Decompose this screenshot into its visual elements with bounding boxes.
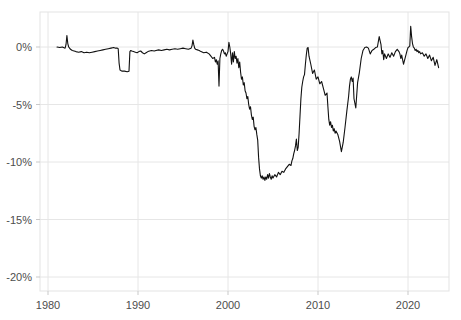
x-axis-tick-label: 2000 <box>216 299 240 311</box>
y-axis-tick-label: -15% <box>0 214 32 226</box>
x-axis-tick-label: 2010 <box>306 299 330 311</box>
y-axis-tick-label: -5% <box>0 99 32 111</box>
y-axis-tick-label: -10% <box>0 156 32 168</box>
x-axis-tick-label: 2020 <box>396 299 420 311</box>
chart-container: 0%-5%-10%-15%-20% 19801990200020102020 <box>0 0 461 320</box>
x-axis-tick-label: 1990 <box>126 299 150 311</box>
y-axis-tick-label: 0% <box>0 41 32 53</box>
x-axis-tick-label: 1980 <box>36 299 60 311</box>
chart-plot-area <box>0 0 461 320</box>
y-axis-tick-label: -20% <box>0 271 32 283</box>
